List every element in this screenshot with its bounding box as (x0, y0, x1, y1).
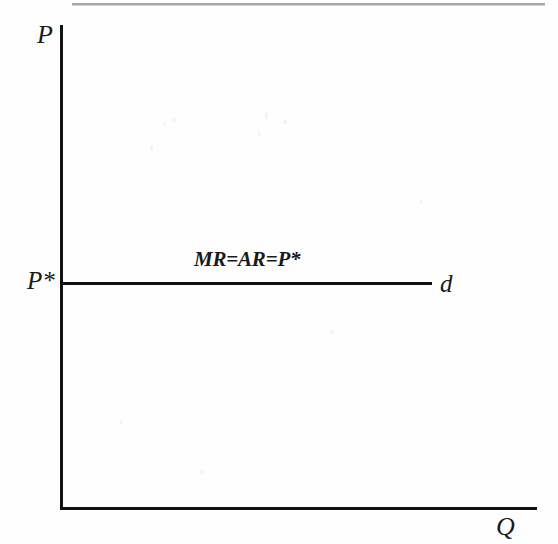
scan-speck (258, 131, 261, 136)
demand-curve-line (61, 282, 432, 285)
quantity-axis (60, 507, 537, 510)
scan-speck (283, 120, 287, 124)
scan-speck (172, 118, 176, 122)
scan-speck (330, 330, 334, 334)
x-axis-label: Q (496, 514, 515, 540)
scan-speck (163, 122, 166, 127)
scan-speck (420, 200, 423, 204)
scan-speck (200, 470, 204, 474)
scan-speck (265, 112, 268, 119)
scan-speck (150, 145, 153, 151)
price-axis (60, 25, 63, 510)
y-axis-label: P (37, 22, 53, 48)
page-top-rule (72, 3, 545, 5)
demand-curve-label: d (440, 271, 453, 296)
economics-diagram: P Q P* d MR=AR=P* (0, 0, 558, 544)
price-level-label: P* (27, 268, 55, 293)
scan-speck (120, 420, 123, 425)
curve-annotation-label: MR=AR=P* (194, 249, 300, 270)
